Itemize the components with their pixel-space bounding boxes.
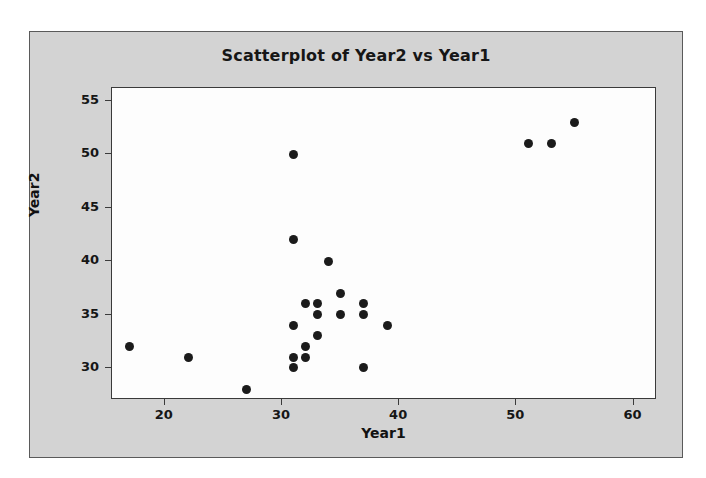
scatter-point: [359, 363, 368, 372]
page-title: Scatterplot of Year2 vs Year1: [30, 46, 682, 65]
scatter-point: [313, 331, 322, 340]
x-axis-title: Year1: [111, 425, 656, 441]
figure-panel: Scatterplot of Year2 vs Year1 Year2 Year…: [29, 31, 683, 458]
x-tick-mark: [515, 399, 516, 405]
scatter-point: [125, 342, 134, 351]
plot-area: [111, 87, 656, 399]
y-tick-label: 55: [69, 93, 99, 106]
scatter-point: [359, 299, 368, 308]
scatter-point: [301, 342, 310, 351]
x-tick-label: 50: [498, 408, 532, 421]
x-tick-mark: [633, 399, 634, 405]
x-tick-mark: [281, 399, 282, 405]
scatter-point: [289, 363, 298, 372]
scatter-point: [313, 310, 322, 319]
x-tick-label: 60: [616, 408, 650, 421]
scatter-point: [301, 353, 310, 362]
y-tick-label: 50: [69, 146, 99, 159]
scatter-points-layer: [112, 88, 655, 398]
y-tick-label: 45: [69, 200, 99, 213]
y-tick-label: 40: [69, 253, 99, 266]
x-tick-label: 30: [264, 408, 298, 421]
scatter-point: [336, 310, 345, 319]
y-tick-label: 30: [69, 360, 99, 373]
scatter-point: [383, 321, 392, 330]
scatter-point: [524, 139, 533, 148]
x-tick-label: 20: [147, 408, 181, 421]
scatter-point: [301, 299, 310, 308]
x-tick-mark: [164, 399, 165, 405]
scatter-point: [242, 385, 251, 394]
scatter-point: [289, 150, 298, 159]
scatter-point: [359, 310, 368, 319]
scatter-point: [184, 353, 193, 362]
scatter-point: [313, 299, 322, 308]
y-tick-label: 35: [69, 307, 99, 320]
x-tick-label: 40: [381, 408, 415, 421]
scatter-point: [570, 118, 579, 127]
scatter-point: [336, 289, 345, 298]
scatter-point: [289, 353, 298, 362]
y-axis-title: Year2: [26, 173, 42, 217]
scatter-point: [547, 139, 556, 148]
x-tick-mark: [398, 399, 399, 405]
scatter-point: [289, 235, 298, 244]
scatter-point: [324, 257, 333, 266]
scatter-point: [289, 321, 298, 330]
